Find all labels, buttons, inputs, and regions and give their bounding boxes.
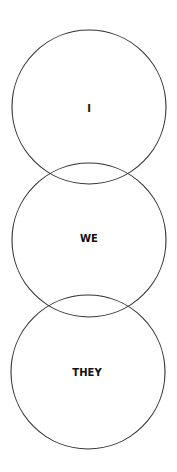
label-they: THEY xyxy=(72,367,102,378)
circles-diagram: I WE THEY xyxy=(0,0,177,472)
label-i: I xyxy=(87,103,91,114)
label-we: WE xyxy=(80,233,98,244)
